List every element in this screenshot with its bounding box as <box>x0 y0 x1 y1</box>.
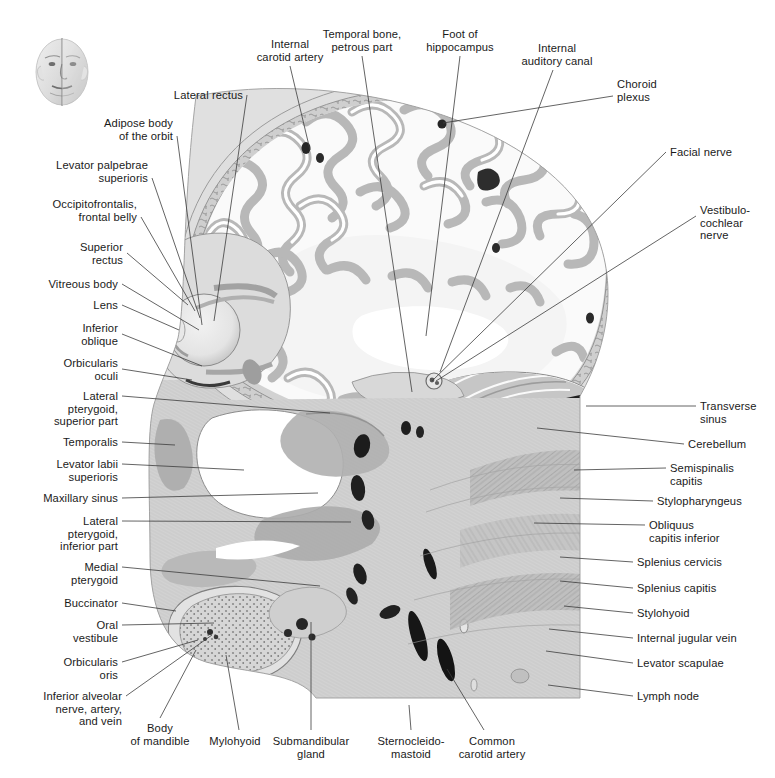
label-vitreous-body: Vitreous body <box>48 278 118 291</box>
label-orbicularis-oris: Orbicularis oris <box>63 656 118 681</box>
label-lateral-pterygoid-inferior-part: Lateral pterygoid, inferior part <box>60 515 118 553</box>
label-choroid-plexus: Choroid plexus <box>617 78 657 103</box>
label-common-carotid-artery: Common carotid artery <box>459 735 526 760</box>
label-splenius-capitis: Splenius capitis <box>637 582 716 595</box>
anatomy-figure-page: Internal carotid arteryTemporal bone, pe… <box>0 0 775 778</box>
label-inferior-oblique: Inferior oblique <box>81 322 118 347</box>
label-internal-auditory-canal: Internal auditory canal <box>521 42 592 67</box>
label-submandibular-gland: Submandibular gland <box>273 735 350 760</box>
label-levator-scapulae: Levator scapulae <box>637 657 724 670</box>
label-transverse-sinus: Transverse sinus <box>700 400 757 425</box>
lymph-node-structure <box>511 669 529 683</box>
label-mylohyoid: Mylohyoid <box>209 735 260 748</box>
label-medial-pterygoid: Medial pterygoid <box>71 561 118 586</box>
label-vestibulocochlear-nerve: Vestibulo- cochlear nerve <box>700 204 750 242</box>
label-lateral-rectus: Lateral rectus <box>174 89 243 102</box>
head-orientation-thumbnail <box>36 38 88 106</box>
label-stylopharyngeus: Stylopharyngeus <box>657 495 742 508</box>
label-levator-labii-superioris: Levator labii superioris <box>56 458 118 483</box>
label-semispinalis-capitis: Semispinalis capitis <box>670 462 734 487</box>
label-oral-vestibule: Oral vestibule <box>73 619 118 644</box>
label-obliquus-capitis-inferior: Obliquus capitis inferior <box>649 519 720 544</box>
label-adipose-body-of-the-orbit: Adipose body of the orbit <box>104 117 173 142</box>
label-superior-rectus: Superior rectus <box>80 241 123 266</box>
label-inferior-alveolar-nerve-artery-and-vein: Inferior alveolar nerve, artery, and vei… <box>43 690 122 728</box>
label-internal-carotid-artery: Internal carotid artery <box>257 38 324 63</box>
label-temporal-bone-petrous-part: Temporal bone, petrous part <box>323 28 402 53</box>
label-stylohyoid: Stylohyoid <box>637 607 690 620</box>
label-lens: Lens <box>93 299 118 312</box>
label-body-of-mandible: Body of mandible <box>131 722 190 747</box>
label-lateral-pterygoid-superior-part: Lateral pterygoid, superior part <box>54 390 118 428</box>
label-cerebellum: Cerebellum <box>688 438 746 451</box>
label-lymph-node: Lymph node <box>637 690 699 703</box>
label-internal-jugular-vein: Internal jugular vein <box>637 632 737 645</box>
label-maxillary-sinus: Maxillary sinus <box>43 492 118 505</box>
label-orbicularis-oculi: Orbicularis oculi <box>63 357 118 382</box>
label-levator-palpebrae-superioris: Levator palpebrae superioris <box>56 159 148 184</box>
label-temporalis: Temporalis <box>63 436 118 449</box>
label-facial-nerve: Facial nerve <box>670 146 732 159</box>
label-foot-of-hippocampus: Foot of hippocampus <box>426 28 494 53</box>
label-sternocleidomastoid: Sternocleido- mastoid <box>377 735 444 760</box>
label-buccinator: Buccinator <box>64 597 118 610</box>
label-occipitofrontalis-frontal-belly: Occipitofrontalis, frontal belly <box>53 198 138 223</box>
label-splenius-cervicis: Splenius cervicis <box>637 556 722 569</box>
